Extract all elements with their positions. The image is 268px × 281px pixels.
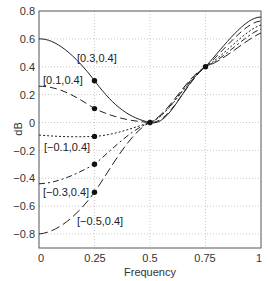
marker [92,78,97,83]
annotation-0.3: [0.3,0.4] [77,52,117,64]
y-tick: 0 [29,117,35,129]
annotations: [0.3,0.4] [0.1,0.4] [−0.1,0.4] [−0.3,0.4… [43,52,123,227]
x-tick: 0.25 [84,252,105,264]
marker [92,190,97,195]
grid [39,11,261,248]
y-tick: 0.8 [20,5,35,17]
x-axis-label: Frequency [124,266,176,278]
x-tick: 0.75 [194,252,215,264]
chart: 0.8 0.6 0.4 0.2 0 −0.2 −0.4 −0.6 −0.8 0 … [0,0,268,281]
x-tick: 0 [38,252,44,264]
y-tick: 0.4 [20,61,35,73]
x-tick: 0.5 [142,252,157,264]
marker [203,64,208,69]
y-tick: −0.8 [13,228,35,240]
y-tick: −0.2 [13,145,35,157]
y-tick: −0.4 [13,172,35,184]
series-neg0.3-line [39,29,261,184]
marker [92,134,97,139]
marker [92,162,97,167]
y-tick: 0.2 [20,89,35,101]
y-tick: 0.6 [20,33,35,45]
marker [147,120,152,125]
annotation-neg0.3: [−0.3,0.4] [43,186,89,198]
x-axis: 0 0.25 0.5 0.75 1 [38,252,262,264]
annotation-neg0.5: [−0.5,0.4] [77,215,123,227]
annotation-0.1: [0.1,0.4] [43,74,83,86]
x-tick: 1 [256,252,262,264]
annotation-neg0.1: [−0.1,0.4] [44,141,90,153]
y-tick: −0.6 [13,200,35,212]
marker [92,106,97,111]
y-axis-label: dB [12,122,24,135]
